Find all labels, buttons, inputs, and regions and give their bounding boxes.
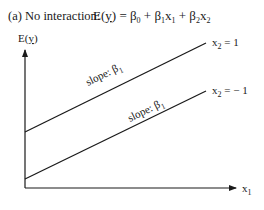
y-axis-label: E(y) <box>18 32 38 45</box>
line-label-x2-pos: x2 = 1 <box>212 36 239 51</box>
line-x2-neg <box>25 91 206 179</box>
panel-label: (a) No interaction: <box>8 9 100 23</box>
slope-label-x2-neg: slope: β1 <box>126 96 167 127</box>
line-x2-pos <box>25 43 206 132</box>
model-equation: E(y) = β0 + β1x1 + β2x2 <box>93 8 210 25</box>
line-label-x2-neg: x2 = − 1 <box>212 84 248 99</box>
regression-diagram: (a) No interaction: E(y) = β0 + β1x1 + β… <box>0 0 264 210</box>
x-axis-label: x1 <box>242 182 252 197</box>
